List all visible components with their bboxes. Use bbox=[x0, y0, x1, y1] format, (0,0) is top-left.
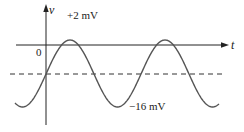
waveform-figure bbox=[0, 0, 244, 132]
origin-label: 0 bbox=[36, 47, 42, 58]
v-axis-arrow-icon bbox=[43, 4, 48, 12]
t-axis-arrow-icon bbox=[221, 42, 229, 47]
v-axis-label: v bbox=[49, 4, 54, 16]
peak-value-label: +2 mV bbox=[67, 10, 98, 21]
t-axis-label: t bbox=[231, 39, 234, 51]
trough-value-label: −16 mV bbox=[129, 101, 165, 112]
